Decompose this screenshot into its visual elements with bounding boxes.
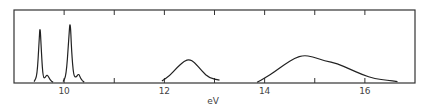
spectrum-band-2: [63, 25, 84, 83]
spectrum-curves: [34, 25, 397, 83]
x-axis-label: eV: [207, 96, 220, 106]
x-tick-labels: 10121416: [58, 86, 370, 96]
x-tick-label: 16: [359, 86, 371, 96]
photoelectron-spectrum-chart: 10121416 eV: [0, 0, 427, 110]
spectrum-band-3: [162, 60, 220, 81]
spectrum-band-1: [34, 30, 53, 83]
plot-frame: [14, 10, 415, 83]
axis-ticks: [64, 10, 365, 83]
x-tick-label: 14: [259, 86, 271, 96]
x-tick-label: 10: [58, 86, 70, 96]
spectrum-band-4: [257, 56, 397, 83]
x-tick-label: 12: [159, 86, 170, 96]
